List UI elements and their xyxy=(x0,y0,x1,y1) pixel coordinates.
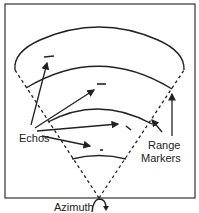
range-marker-arc-3 xyxy=(72,156,126,160)
azimuth-arrowhead-icon xyxy=(103,206,109,211)
echo-arrow-2 xyxy=(35,90,94,128)
display-frame xyxy=(5,4,195,198)
range-markers-label-line2: Markers xyxy=(141,152,181,164)
echo-mark-3 xyxy=(126,126,131,130)
range-markers-label-line1: Range xyxy=(148,139,180,151)
outer-range-arc xyxy=(15,27,184,70)
range-marker-arrow-1 xyxy=(152,120,162,132)
azimuth-label: Azimuth xyxy=(54,201,94,213)
echos-label: Echos xyxy=(19,132,50,144)
echo-mark-1 xyxy=(44,56,54,57)
range-marker-arc-2 xyxy=(48,109,152,124)
azimuth-rotation-icon xyxy=(92,199,106,212)
radar-diagram xyxy=(0,0,199,213)
range-marker-arc-1 xyxy=(26,66,172,89)
echo-arrow-3 xyxy=(37,124,118,131)
